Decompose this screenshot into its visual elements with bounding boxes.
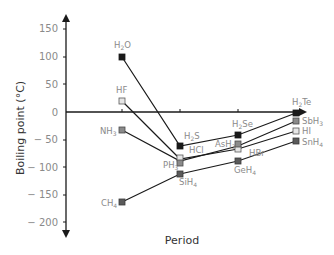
point-ch4	[119, 199, 125, 205]
markers-group14	[119, 138, 299, 205]
y-tick-label: − 50	[34, 134, 58, 145]
label-h2o: H2O	[114, 40, 131, 51]
x-axis-arrow-icon	[299, 108, 307, 116]
point-snh4	[293, 138, 299, 144]
label-hf: HF	[116, 85, 127, 95]
y-tick-label: − 100	[27, 162, 58, 173]
y-tick-label: 0	[52, 107, 58, 118]
boiling-point-chart: 150 100 50 0 − 50 − 100 − 150 − 200 Boil…	[0, 0, 334, 255]
y-axis-up-arrow-icon	[62, 14, 70, 22]
y-axis-down-arrow-icon	[62, 230, 70, 238]
point-h2o	[119, 54, 125, 60]
label-hi: HI	[302, 126, 311, 136]
point-hf	[119, 98, 125, 104]
point-nh3	[119, 127, 125, 133]
x-axis-title: Period	[165, 234, 199, 247]
label-ash3: AsH3	[215, 139, 236, 150]
label-hcl: HCl	[189, 145, 204, 155]
point-h2te	[293, 110, 299, 116]
markers-group17	[119, 98, 299, 161]
label-ph3: PH3	[163, 160, 179, 171]
label-nh3: NH3	[100, 126, 117, 137]
point-h2se	[235, 132, 241, 138]
point-sbh3	[293, 118, 299, 124]
markers-group16	[119, 54, 299, 149]
label-h2te: H2Te	[292, 97, 311, 108]
series-line-group14	[122, 141, 296, 202]
point-hi	[293, 128, 299, 134]
point-geh4	[235, 158, 241, 164]
label-h2s: H2S	[184, 131, 200, 142]
point-ash3	[235, 141, 241, 147]
label-sih4: SiH4	[179, 177, 197, 188]
y-axis-title: Boiling point (°C)	[14, 81, 27, 175]
y-tick-label: 50	[45, 79, 58, 90]
point-h2s	[177, 143, 183, 149]
label-h2se: H2Se	[232, 119, 253, 130]
label-geh4: GeH4	[234, 165, 256, 176]
label-ch4: CH4	[101, 198, 117, 209]
y-tick-label: 150	[39, 23, 58, 34]
label-snh4: SnH4	[302, 137, 323, 148]
y-tick-label: − 200	[27, 217, 58, 228]
y-tick-label: 100	[39, 51, 58, 62]
y-tick-label: − 150	[27, 189, 58, 200]
y-tick-labels: 150 100 50 0 − 50 − 100 − 150 − 200	[27, 23, 58, 228]
label-hbr: HBr	[249, 148, 265, 158]
